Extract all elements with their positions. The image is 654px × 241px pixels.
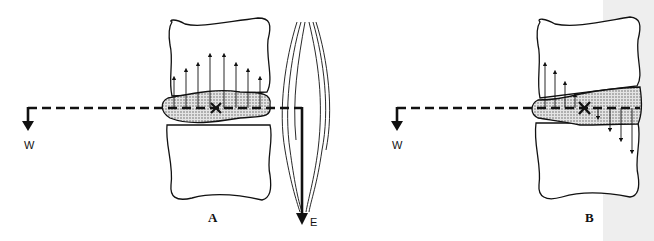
lower-vertebra-b bbox=[535, 123, 639, 199]
weight-arrow-a bbox=[22, 107, 34, 131]
weight-label-a: W bbox=[24, 139, 35, 151]
extensor-muscle-icon bbox=[282, 22, 329, 212]
spine-load-diagram: W E A bbox=[0, 0, 654, 241]
upper-vertebra-b bbox=[537, 17, 640, 98]
panel-label-b: B bbox=[585, 210, 594, 225]
lower-vertebra-a bbox=[167, 125, 271, 200]
muscle-force-label-e: E bbox=[310, 216, 317, 228]
upper-vertebra-a bbox=[169, 18, 270, 96]
muscle-force-arrow-e bbox=[296, 107, 308, 225]
panel-b: W B bbox=[391, 17, 641, 225]
panel-label-a: A bbox=[208, 210, 218, 225]
weight-label-b: W bbox=[392, 139, 403, 151]
weight-arrow-b bbox=[391, 107, 403, 131]
panel-a: W E A bbox=[22, 18, 330, 228]
